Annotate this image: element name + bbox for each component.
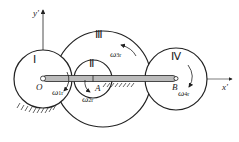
pivot-B xyxy=(174,77,178,81)
omega1-label: ω1r xyxy=(52,88,63,97)
gear-III-label: Ⅲ xyxy=(95,29,103,40)
carrier-arm xyxy=(43,76,176,82)
omega4-label: ω4r xyxy=(178,89,189,98)
x-axis-label: x' xyxy=(222,83,228,92)
point-O-label: O xyxy=(36,83,43,92)
point-A-label: A xyxy=(95,84,101,93)
pivot-O xyxy=(41,76,46,81)
omega3-label: ω3r xyxy=(110,50,121,59)
diagram-graphics xyxy=(0,0,239,142)
gear-II-label: Ⅱ xyxy=(89,58,94,69)
point-B-label: B xyxy=(172,83,178,92)
omega3-arrow xyxy=(121,45,136,56)
omega2-label: ω2r xyxy=(82,95,93,104)
ground-hatch-right xyxy=(103,83,134,87)
y-axis-label: y' xyxy=(33,9,39,18)
gear-I-label: Ⅰ xyxy=(33,54,36,65)
gear-train-diagram: y' x' Ⅰ Ⅱ Ⅲ Ⅳ O A B ω1r ω2r ω3r ω4r xyxy=(0,0,239,142)
gear-IV-label: Ⅳ xyxy=(171,51,181,62)
